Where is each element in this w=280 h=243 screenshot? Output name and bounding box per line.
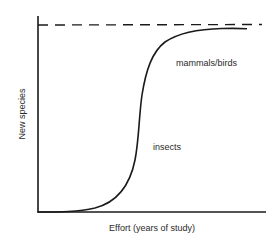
- annotation-mammals-birds: mammals/birds: [176, 58, 238, 68]
- species-discovery-chart: mammals/birds insects Effort (years of s…: [0, 0, 280, 243]
- species-curve: [38, 28, 247, 212]
- asymptote-dashed-line: [38, 25, 262, 26]
- y-axis-label: New species: [17, 88, 27, 140]
- x-axis-label: Effort (years of study): [109, 223, 195, 233]
- annotation-insects: insects: [153, 142, 182, 152]
